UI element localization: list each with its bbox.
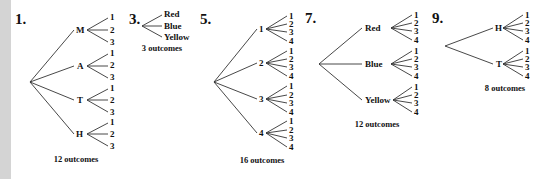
branch-label: Yellow <box>365 95 391 105</box>
outcomes-count: 3 outcomes <box>142 43 183 53</box>
branch-label: T <box>496 59 502 69</box>
branch-label: 1 <box>259 24 264 34</box>
tree-diagram-9: 9. H T 1 2 3 4 1 2 3 4 8 outcomes <box>432 10 530 93</box>
outcomes-count: 8 outcomes <box>485 83 526 93</box>
leaf-label: 4 <box>525 35 530 45</box>
tree-diagram-3: 3. Red Blue Yellow 3 outcomes <box>129 9 190 53</box>
leaf-label: 4 <box>414 71 419 81</box>
branch-label: M <box>76 25 85 35</box>
leaf-label: 2 <box>110 25 115 35</box>
problem-number: 3. <box>129 11 141 27</box>
outcomes-count: 12 outcomes <box>54 154 99 164</box>
leaf-label: 2 <box>110 95 115 105</box>
branch-label: 2 <box>259 58 264 68</box>
leaf-label: 1 <box>110 83 115 93</box>
branch-label: Red <box>365 23 381 33</box>
problem-number: 7. <box>305 10 317 26</box>
leaf-label: 1 <box>110 12 115 22</box>
branch-label: 4 <box>259 128 264 138</box>
leaf-label: 3 <box>110 37 115 47</box>
leaf-label: 4 <box>525 71 530 81</box>
tree-diagram-5: 5. 1 2 3 4 1 2 3 4 1 2 3 4 1 2 3 4 1 2 3… <box>200 11 294 165</box>
tree-diagrams: 1. M A T H 1 2 3 1 2 3 1 2 3 1 2 3 12 ou… <box>0 0 543 179</box>
leaf-label: 4 <box>414 35 419 45</box>
problem-number: 1. <box>15 11 27 27</box>
branch-label: 3 <box>259 94 264 104</box>
leaf-label: 1 <box>110 48 115 58</box>
outcomes-count: 16 outcomes <box>240 155 285 165</box>
branch-label: H <box>495 23 502 33</box>
leaf-label: Blue <box>164 21 182 31</box>
leaf-label: 4 <box>289 71 294 81</box>
tree-diagram-7: 7. Red Blue Yellow 1 2 3 4 1 2 3 4 1 2 3… <box>305 10 419 129</box>
leaf-label: 2 <box>110 60 115 70</box>
branch-label: Blue <box>365 59 383 69</box>
leaf-label: 4 <box>289 36 294 46</box>
leaf-label: 2 <box>110 129 115 139</box>
leaf-label: 4 <box>414 107 419 117</box>
problem-number: 5. <box>200 11 212 27</box>
leaf-label: 3 <box>110 72 115 82</box>
outcomes-count: 12 outcomes <box>355 119 400 129</box>
leaf-label: 3 <box>110 141 115 151</box>
branch-label: H <box>76 129 83 139</box>
leaf-label: 4 <box>289 142 294 152</box>
branch-label: T <box>77 95 83 105</box>
tree-diagram-1: 1. M A T H 1 2 3 1 2 3 1 2 3 1 2 3 12 ou… <box>15 11 115 164</box>
leaf-label: 3 <box>110 107 115 117</box>
branch-label: A <box>77 61 84 71</box>
leaf-label: Yellow <box>164 32 190 42</box>
leaf-label: Red <box>164 9 180 19</box>
problem-number: 9. <box>432 10 444 26</box>
leaf-label: 1 <box>110 117 115 127</box>
